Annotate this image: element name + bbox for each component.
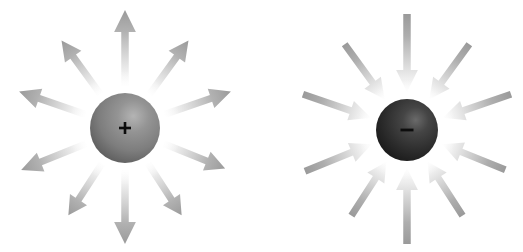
minus-sign-bar [401,129,414,132]
negative-charge-sphere-group [357,80,457,180]
electric-field-diagram [0,0,523,252]
figure-root [0,0,523,252]
plus-sign-vertical-bar [124,122,127,134]
positive-charge-sphere-group [68,71,181,184]
